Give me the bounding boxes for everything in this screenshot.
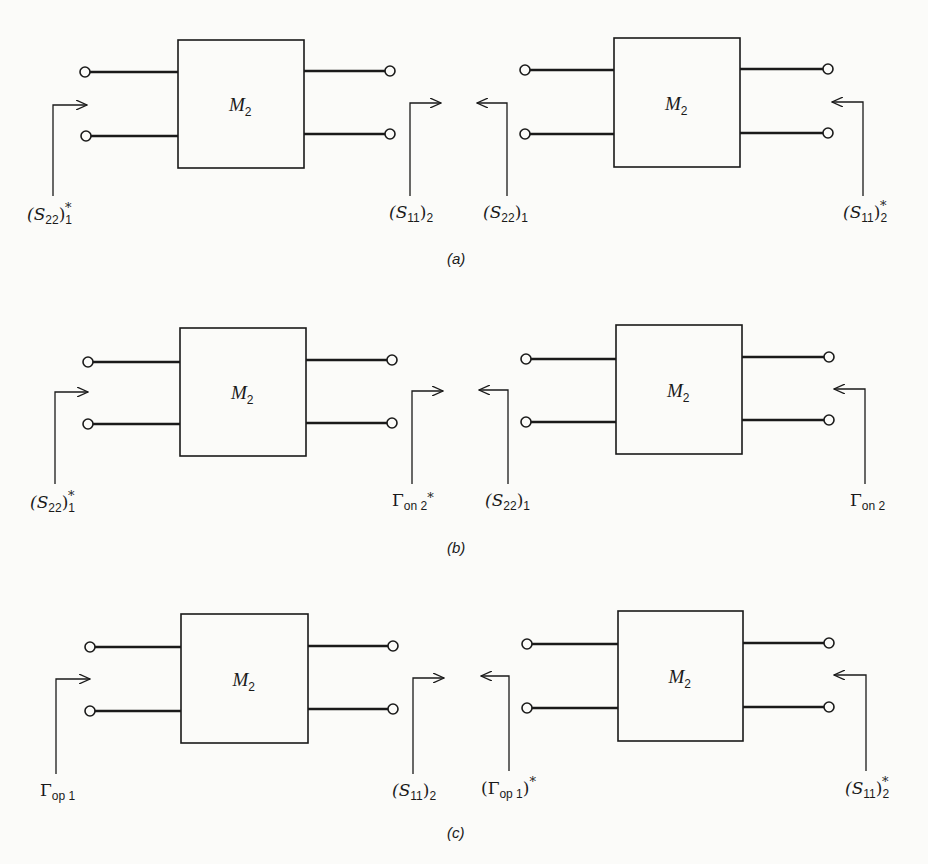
- reflection-arrow: [53, 105, 87, 196]
- label-sub: 11: [407, 211, 420, 225]
- block-label: M2: [230, 382, 254, 407]
- reflection-arrow: [481, 676, 509, 771]
- input-terminal-icon: [83, 419, 93, 429]
- block-label: M2: [664, 93, 688, 118]
- label-sub: 22: [48, 501, 62, 515]
- label-sup: *: [529, 774, 536, 789]
- output-terminal-icon: [823, 64, 833, 74]
- figure-canvas: M2(S22)1*M2(S22)1(S11)2(S11)2*(a)M2(S22)…: [0, 0, 928, 864]
- output-terminal-icon: [388, 641, 398, 651]
- reflection-arrow-right: [834, 675, 866, 771]
- output-terminal-icon: [824, 352, 834, 362]
- reflection-label-right: Γon 2: [850, 490, 885, 513]
- label-tail-sub: 1: [521, 211, 528, 225]
- label-close: ): [420, 202, 427, 222]
- panel-b: M2(S22)1*M2(S22)1Γon 2*Γon 2(b): [30, 325, 885, 556]
- reflection-label-mid: (S11)2: [389, 202, 433, 225]
- block-label: M2: [232, 669, 256, 694]
- reflection-arrow-mid: [412, 391, 443, 484]
- label-tail-sub: 1: [65, 213, 72, 227]
- input-terminal-icon: [521, 417, 531, 427]
- two-port-network-left: M2Γop 1: [40, 614, 398, 803]
- block-label: M2: [228, 94, 252, 119]
- reflection-label-mid: (S11)2: [392, 780, 436, 803]
- label-main: (S: [843, 202, 861, 222]
- two-port-network-right: M2(S22)1: [479, 325, 834, 513]
- panel-caption-a: (a): [447, 250, 465, 267]
- reflection-arrow-right: [834, 389, 865, 484]
- output-terminal-icon: [387, 418, 397, 428]
- input-terminal-icon: [520, 65, 530, 75]
- label-sup: *: [65, 200, 72, 215]
- label-sub: 22: [501, 211, 515, 225]
- two-port-network-right: M2(S22)1: [477, 38, 833, 225]
- label-sub: 22: [45, 213, 59, 227]
- label-sub: 11: [410, 789, 423, 803]
- label-tail-sub: 1: [68, 501, 75, 515]
- label-close: ): [515, 202, 522, 222]
- input-terminal-icon: [85, 642, 95, 652]
- label-main: (S: [845, 778, 863, 798]
- output-terminal-icon: [387, 355, 397, 365]
- input-terminal-icon: [80, 67, 90, 77]
- reflection-label-mid: Γon 2*: [392, 490, 434, 513]
- label-sub: op 1: [499, 787, 523, 801]
- two-port-network-right: M2(Γop 1)*: [481, 611, 834, 801]
- label-main: (S: [389, 202, 407, 222]
- input-terminal-icon: [522, 639, 532, 649]
- label-tail-sub: 2: [426, 211, 433, 225]
- label-sup: *: [68, 488, 75, 503]
- output-terminal-icon: [385, 66, 395, 76]
- two-port-cascade-diagram: M2(S22)1*M2(S22)1(S11)2(S11)2*(a)M2(S22)…: [0, 0, 928, 864]
- output-terminal-icon: [824, 638, 834, 648]
- label-close: ): [517, 490, 524, 510]
- reflection-label: (S22)1*: [27, 200, 72, 227]
- label-sub: on 2: [404, 499, 428, 513]
- input-terminal-icon: [522, 703, 532, 713]
- label-main: Γ: [392, 490, 404, 510]
- panel-caption-b: (b): [447, 539, 465, 556]
- label-close: ): [523, 778, 530, 798]
- label-main: Γ: [40, 780, 52, 800]
- output-terminal-icon: [824, 702, 834, 712]
- reflection-arrow-mid: [410, 103, 441, 196]
- reflection-label: Γop 1: [40, 780, 75, 803]
- reflection-arrow-mid: [413, 678, 444, 774]
- input-terminal-icon: [81, 131, 91, 141]
- label-sup: *: [882, 774, 889, 789]
- input-terminal-icon: [521, 354, 531, 364]
- label-sup: *: [427, 490, 434, 505]
- label-tail-sub: 2: [429, 789, 436, 803]
- label-sup: *: [880, 198, 887, 213]
- label-main: (Γ: [481, 778, 500, 798]
- reflection-arrow: [56, 679, 90, 774]
- output-terminal-icon: [388, 704, 398, 714]
- block-label: M2: [668, 666, 692, 691]
- input-terminal-icon: [85, 706, 95, 716]
- label-main: (S: [392, 780, 410, 800]
- output-terminal-icon: [823, 128, 833, 138]
- label-main: Γ: [850, 490, 862, 510]
- label-sub: 22: [503, 499, 517, 513]
- reflection-arrow: [479, 390, 508, 484]
- label-tail-sub: 2: [880, 211, 887, 225]
- reflection-label: (S22)1*: [30, 488, 75, 515]
- panel-caption-c: (c): [447, 824, 465, 841]
- input-terminal-icon: [83, 357, 93, 367]
- reflection-arrow-right: [832, 102, 863, 196]
- label-sub: 11: [861, 211, 874, 225]
- reflection-label: (Γop 1)*: [481, 774, 536, 801]
- output-terminal-icon: [385, 129, 395, 139]
- two-port-network-left: M2(S22)1*: [27, 40, 395, 227]
- reflection-label: (S22)1: [483, 202, 528, 225]
- panel-c: M2Γop 1M2(Γop 1)*(S11)2(S11)2*(c): [40, 611, 889, 841]
- input-terminal-icon: [520, 129, 530, 139]
- label-close: ): [423, 780, 430, 800]
- label-sub: op 1: [52, 789, 76, 803]
- output-terminal-icon: [824, 415, 834, 425]
- block-label: M2: [666, 380, 690, 405]
- label-sub: on 2: [862, 499, 886, 513]
- label-main: (S: [30, 492, 48, 512]
- panel-a: M2(S22)1*M2(S22)1(S11)2(S11)2*(a): [27, 38, 887, 267]
- two-port-network-left: M2(S22)1*: [30, 328, 397, 515]
